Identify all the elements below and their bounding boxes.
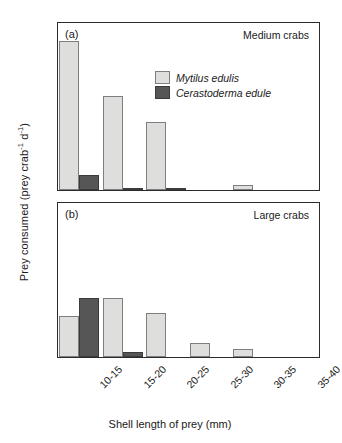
legend-swatch-mytilus [155, 71, 170, 84]
bar-mytilus-25-30 [190, 343, 210, 357]
legend-swatch-cerastoderma [155, 86, 170, 99]
panel-medium-crabs: (a) Medium crabs 024 [57, 22, 320, 191]
bar-cerastoderma-15-20 [123, 352, 143, 357]
bar-cerastoderma-10-15 [79, 298, 99, 357]
bar-mytilus-30-35 [233, 185, 253, 190]
bar-mytilus-15-20 [103, 96, 123, 190]
bar-mytilus-20-25 [146, 122, 166, 190]
bar-mytilus-20-25 [146, 313, 166, 357]
x-axis-title: Shell length of prey (mm) [0, 418, 340, 430]
bar-mytilus-10-15 [59, 41, 79, 190]
legend-label-mytilus: Mytilus edulis [176, 72, 239, 84]
legend-label-cerastoderma: Cerastoderma edule [176, 87, 271, 99]
y-axis-title-mid: d [18, 134, 30, 143]
bar-mytilus-10-15 [59, 316, 79, 357]
x-axis-tick-label-25-30: 25-30 [228, 363, 255, 390]
x-axis-tick-label-15-20: 15-20 [141, 363, 168, 390]
plot-area-b: 024 [58, 203, 319, 357]
x-axis-tick-label-35-40: 35-40 [315, 363, 342, 390]
legend-item-cerastoderma: Cerastoderma edule [155, 86, 271, 99]
y-axis-title-exponent-1: -1 [16, 143, 25, 150]
bar-mytilus-15-20 [103, 298, 123, 357]
legend-item-mytilus: Mytilus edulis [155, 71, 271, 84]
y-axis-title-text: Prey consumed (prey crab [18, 150, 30, 281]
legend: Mytilus edulis Cerastoderma edule [155, 71, 271, 101]
x-axis-tick-label-20-25: 20-25 [184, 363, 211, 390]
plot-area-a: 024 [58, 23, 319, 190]
y-axis-title-end: ) [18, 123, 30, 127]
bar-cerastoderma-10-15 [79, 175, 99, 190]
x-axis-tick-label-10-15: 10-15 [97, 363, 124, 390]
x-axis-tick-label-30-35: 30-35 [271, 363, 298, 390]
bar-cerastoderma-15-20 [123, 188, 143, 190]
bar-mytilus-30-35 [233, 349, 253, 357]
bar-cerastoderma-20-25 [166, 188, 186, 190]
panel-large-crabs: (b) Large crabs 024 [57, 202, 320, 358]
y-axis-title-exponent-2: -1 [16, 127, 25, 134]
y-axis-title: Prey consumed (prey crab-1 d-1) [18, 82, 30, 322]
